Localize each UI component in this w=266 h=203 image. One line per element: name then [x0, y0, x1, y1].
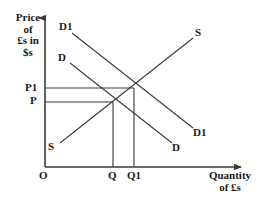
- y-axis-title: Price of £s in $s: [6, 12, 50, 58]
- demand-curve-d: [70, 63, 172, 143]
- demand-curve-label-right: D: [172, 142, 180, 154]
- y-axis-title-line-4: $s: [6, 47, 50, 59]
- x-axis-title-line-1: Quantity: [196, 170, 264, 182]
- y-axis-title-line-3: £s in: [6, 35, 50, 47]
- price-tick-label-p: P: [30, 95, 37, 107]
- demand-curve-label-top: D: [58, 52, 66, 64]
- supply-curve-s: [60, 38, 193, 143]
- price-tick-label-p1: P1: [25, 82, 37, 94]
- supply-curve-label-low: S: [48, 141, 54, 153]
- x-axis-title: Quantity of £s: [196, 170, 264, 193]
- demand1-curve-label-top: D1: [59, 21, 72, 33]
- demand1-curve-label-right: D1: [193, 127, 206, 139]
- supply-demand-diagram: Price of £s in $s Quantity of £s O P P1 …: [0, 0, 266, 203]
- x-axis-title-line-2: of £s: [196, 182, 264, 194]
- origin-label: O: [39, 170, 48, 182]
- y-axis-title-line-1: Price: [6, 12, 50, 24]
- supply-curve-label-high: S: [195, 27, 201, 39]
- quantity-tick-label-q: Q: [108, 170, 117, 182]
- demand-curve-d1: [72, 33, 193, 128]
- quantity-tick-label-q1: Q1: [127, 170, 141, 182]
